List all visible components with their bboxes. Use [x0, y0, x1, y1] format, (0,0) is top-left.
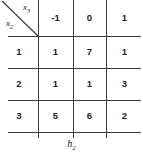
row-header: 2: [0, 68, 38, 100]
value-table-grid: x3 x2 -1 0 1 1 1 7 1 2 1 1 3 3 5 6 2: [0, 0, 143, 138]
row-variable-label: x2: [6, 19, 13, 30]
table-cell: 1: [38, 36, 73, 68]
row-header: 1: [0, 36, 38, 68]
figure-caption: h2: [0, 139, 143, 152]
column-variable-label: x3: [23, 3, 30, 14]
corner-header-cell: x3 x2: [0, 0, 38, 36]
column-header: 1: [106, 0, 143, 36]
value-table-figure: x3 x2 -1 0 1 1 1 7 1 2 1 1 3 3 5 6 2 h2: [0, 0, 143, 161]
table-cell: 3: [106, 68, 143, 100]
grid-horizontal-rule: [8, 132, 141, 133]
table-cell: 2: [106, 100, 143, 132]
table-cell: 1: [73, 68, 106, 100]
table-cell: 1: [106, 36, 143, 68]
table-cell: 1: [38, 68, 73, 100]
table-cell: 6: [73, 100, 106, 132]
row-header: 3: [0, 100, 38, 132]
table-cell: 7: [73, 36, 106, 68]
column-header: -1: [38, 0, 73, 36]
column-header: 0: [73, 0, 106, 36]
table-cell: 5: [38, 100, 73, 132]
